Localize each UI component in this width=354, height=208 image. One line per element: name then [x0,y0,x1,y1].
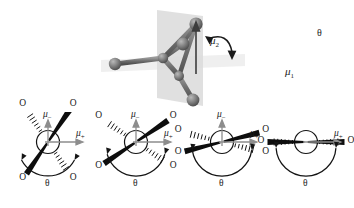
atom-sphere [109,58,121,70]
wedge-bond [24,143,48,176]
theta-arrowhead [74,153,79,160]
theta-label: θ [133,179,138,189]
newman-panel: OOOOμ−μ+θ [92,112,180,208]
newman-projection-graphic [4,112,92,208]
atom-sphere [187,94,200,107]
oxygen-label: O [348,136,354,146]
oxygen-label: O [258,136,265,146]
mu-plus-label: μ+ [164,129,173,141]
mu1-label: μ1 [285,66,294,80]
mu-plus-label: μ+ [76,129,85,141]
mu-plus-label: μ+ [334,129,343,141]
atom-sphere [174,71,184,81]
newman-panel: OOOOμ−μ+θ [178,112,266,208]
theta-arrowhead [164,148,169,155]
oxygen-label: O [19,173,26,183]
atom-sphere [158,53,168,63]
mu2-label: μ2 [210,35,219,49]
hashed-bond [190,131,212,141]
three-dimensional-model-graphic [95,2,255,112]
newman-projection-graphic [262,112,350,208]
oxygen-label: O [175,147,182,157]
oxygen-label: O [170,111,177,121]
theta-label-top: θ [317,28,322,38]
atom-sphere [177,38,190,51]
newman-panel: OOμ+θ [262,112,350,208]
theta-arrowhead [22,153,27,160]
oxygen-label: O [19,99,26,109]
mu-minus-label: μ− [131,110,140,122]
oxygen-label: O [95,161,102,171]
hashed-bond [28,114,44,135]
oxygen-label: O [95,111,102,121]
newman-projection-row: OOOOμ−μ+θOOOOμ−μ+θOOOOμ−μ+θOOμ+θ [0,112,345,208]
oxygen-label: O [175,125,182,135]
oxygen-label: O [170,161,177,171]
newman-panel: OOOOμ−μ+θ [4,112,92,208]
theta-arrowhead [106,148,111,155]
newman-projection-graphic [178,112,266,208]
mu1-subscript: 1 [291,72,295,80]
theta-label: θ [219,179,224,189]
theta-label: θ [45,179,50,189]
oxygen-label: O [70,99,77,109]
mu-minus-label: μ− [217,110,226,122]
oxygen-label: O [70,173,77,183]
hashed-bond [144,147,165,163]
mu2-subscript: 2 [216,41,220,49]
theta-label: θ [303,179,308,189]
newman-projection-graphic [92,112,180,208]
three-dimensional-model-panel: μ2 μ1 θ [95,2,255,112]
mu-minus-label: μ− [43,110,52,122]
hashed-bond [108,122,129,138]
hashed-bond [53,150,69,171]
